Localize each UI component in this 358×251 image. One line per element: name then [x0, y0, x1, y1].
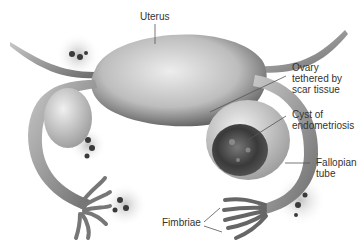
label-cyst: Cyst of endometriosis — [292, 109, 354, 131]
endometriosis-diagram: Uterus Ovary tethered by scar tissue Cys… — [0, 0, 358, 251]
label-fimbriae: Fimbriae — [162, 217, 201, 228]
label-uterus: Uterus — [140, 11, 169, 22]
label-ovary: Ovary tethered by scar tissue — [292, 62, 342, 95]
left-fimbriae — [76, 178, 110, 238]
endometriosis-cyst — [212, 124, 268, 176]
label-fallopian-tube: Fallopian tube — [316, 157, 357, 179]
left-ovary — [44, 88, 92, 148]
right-fimbriae — [224, 199, 266, 238]
